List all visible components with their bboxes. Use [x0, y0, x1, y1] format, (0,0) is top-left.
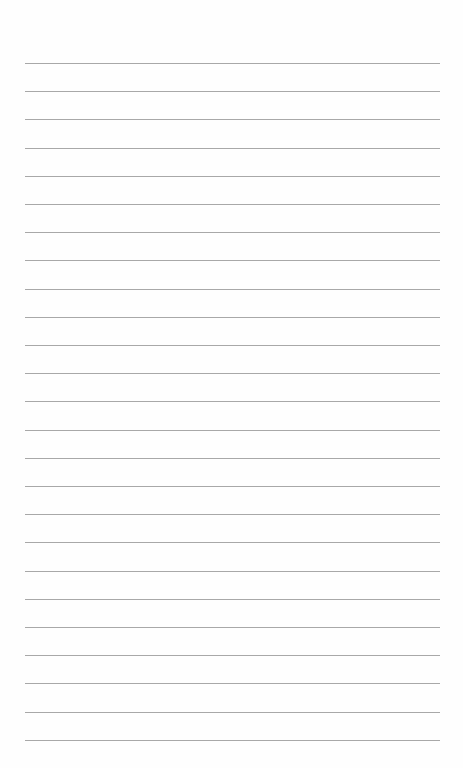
lined-paper-page [0, 0, 463, 768]
ruled-line [25, 486, 440, 487]
ruled-line [25, 514, 440, 515]
ruled-line [25, 712, 440, 713]
ruled-line [25, 289, 440, 290]
ruled-line [25, 571, 440, 572]
ruled-line [25, 317, 440, 318]
ruled-line [25, 627, 440, 628]
ruled-line [25, 740, 440, 741]
ruled-line [25, 683, 440, 684]
ruled-line [25, 655, 440, 656]
ruled-line [25, 373, 440, 374]
ruled-line [25, 401, 440, 402]
ruled-line [25, 63, 440, 64]
ruled-line [25, 148, 440, 149]
ruled-line [25, 232, 440, 233]
ruled-line [25, 119, 440, 120]
ruled-line [25, 458, 440, 459]
ruled-line [25, 430, 440, 431]
ruled-line [25, 204, 440, 205]
ruled-line [25, 599, 440, 600]
ruled-line [25, 345, 440, 346]
ruled-line [25, 542, 440, 543]
ruled-line [25, 91, 440, 92]
ruled-line [25, 260, 440, 261]
ruled-line [25, 176, 440, 177]
